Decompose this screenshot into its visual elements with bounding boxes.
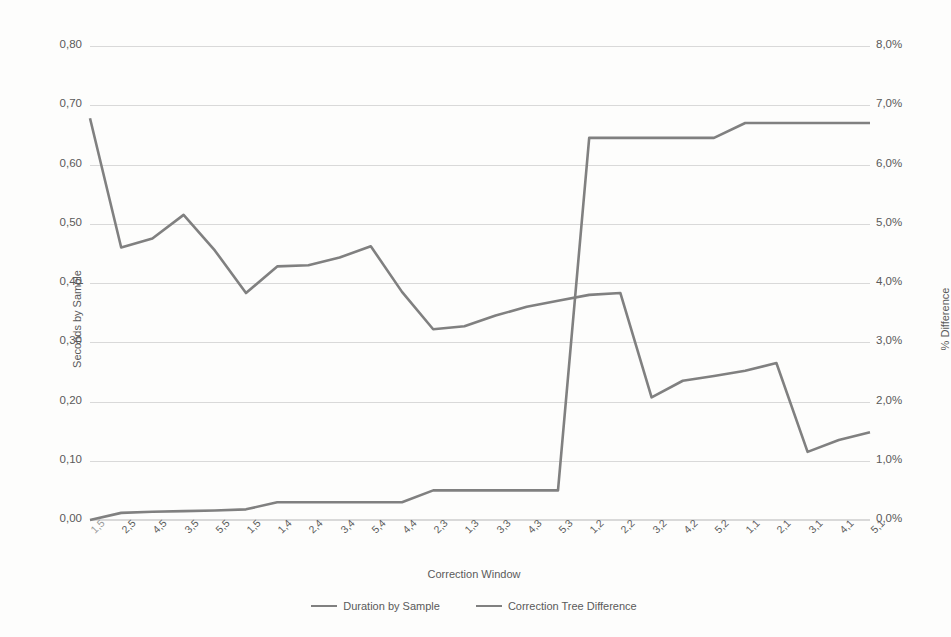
y-axis-right-tick-label: 3,0% (876, 334, 902, 346)
legend-item[interactable]: Duration by Sample (311, 600, 440, 612)
y-axis-right-title: % Difference (939, 287, 951, 350)
y-axis-left-tick-label: 0,70 (60, 97, 82, 109)
y-axis-right-tick-label: 2,0% (876, 394, 902, 406)
y-axis-left-tick-label: 0,20 (60, 394, 82, 406)
y-axis-right-tick-label: 4,0% (876, 275, 902, 287)
legend-line-icon (311, 605, 337, 608)
y-axis-left-tick-label: 0,40 (60, 275, 82, 287)
y-axis-right-tick-label: 7,0% (876, 97, 902, 109)
chart-legend: Duration by SampleCorrection Tree Differ… (0, 600, 948, 612)
legend-item[interactable]: Correction Tree Difference (476, 600, 637, 612)
y-axis-right-tick-label: 5,0% (876, 216, 902, 228)
y-axis-left-tick-label: 0,30 (60, 334, 82, 346)
y-axis-left-tick-label: 0,50 (60, 216, 82, 228)
y-axis-right-tick-label: 1,0% (876, 453, 902, 465)
x-axis-title: Correction Window (0, 568, 948, 580)
legend-label: Correction Tree Difference (508, 600, 637, 612)
legend-line-icon (476, 605, 502, 608)
y-axis-left-tick-label: 0,80 (60, 38, 82, 50)
plot-area (90, 46, 870, 520)
y-axis-right-tick-label: 6,0% (876, 157, 902, 169)
y-axis-right-tick-label: 8,0% (876, 38, 902, 50)
y-axis-left-tick-label: 0,10 (60, 453, 82, 465)
y-axis-left-tick-label: 0,60 (60, 157, 82, 169)
series-line-1 (90, 118, 870, 452)
series-layer (90, 46, 870, 520)
y-axis-left-tick-label: 0,00 (60, 512, 82, 524)
legend-label: Duration by Sample (343, 600, 440, 612)
